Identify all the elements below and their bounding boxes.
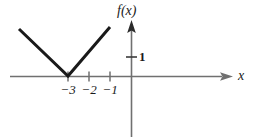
function-curve (19, 27, 110, 76)
x-axis-label: x (238, 69, 244, 83)
graph-canvas (0, 0, 255, 137)
function-graph-figure: f(x) x 1 −3 −2 −1 (0, 0, 255, 137)
x-tick-label-minus1: −1 (97, 83, 123, 96)
y-axis-label: f(x) (117, 4, 136, 18)
y-tick-label-1: 1 (139, 50, 146, 63)
